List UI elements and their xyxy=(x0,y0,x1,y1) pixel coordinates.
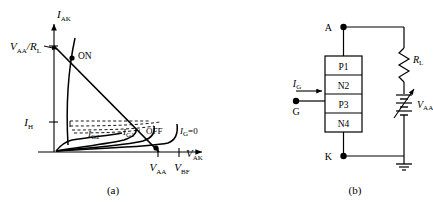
label-ig2: IG2 xyxy=(87,129,100,141)
gate-node-dot xyxy=(293,98,299,104)
negative-resistance-dashed-3 xyxy=(72,126,154,130)
figure-svg: IAK VAK VAA/RL IH VAA VBF ON xyxy=(0,0,433,204)
on-operating-point xyxy=(69,55,74,60)
label-ig-zero: IG=0 xyxy=(179,126,198,138)
layer-label-p1: P1 xyxy=(338,62,348,72)
label-load-resistor: RL xyxy=(412,54,423,67)
caption-panel-a: (a) xyxy=(107,184,120,197)
load-line xyxy=(54,46,159,152)
layer-label-p3: P3 xyxy=(338,100,348,110)
label-vbf-tick: VBF xyxy=(174,161,189,176)
panel-a-group: IAK VAK VAA/RL IH VAA VBF ON xyxy=(10,8,203,197)
off-operating-point xyxy=(153,145,158,150)
y-axis-label: IAK xyxy=(56,8,71,23)
panel-b-group: P1 N2 P3 N4 A K G IG RL xyxy=(292,22,433,197)
figure-container: IAK VAK VAA/RL IH VAA VBF ON xyxy=(0,0,433,204)
load-resistor-symbol xyxy=(399,48,409,82)
label-off: OFF xyxy=(146,126,163,136)
layer-label-n2: N2 xyxy=(338,81,350,91)
terminal-label-gate: G xyxy=(292,106,299,117)
label-vaa-tick: VAA xyxy=(150,161,167,176)
caption-panel-b: (b) xyxy=(349,184,362,197)
label-gate-current: IG xyxy=(292,78,301,91)
terminal-label-cathode: K xyxy=(325,151,333,162)
on-state-branch xyxy=(67,38,75,145)
label-vaa-over-rl: VAA/RL xyxy=(10,40,41,55)
label-ih: IH xyxy=(23,116,33,131)
label-supply-vaa: VAA xyxy=(417,99,433,112)
x-axis-label: VAK xyxy=(186,147,203,162)
layer-label-n4: N4 xyxy=(338,119,350,129)
label-on: ON xyxy=(78,51,92,61)
terminal-label-anode: A xyxy=(325,22,333,33)
